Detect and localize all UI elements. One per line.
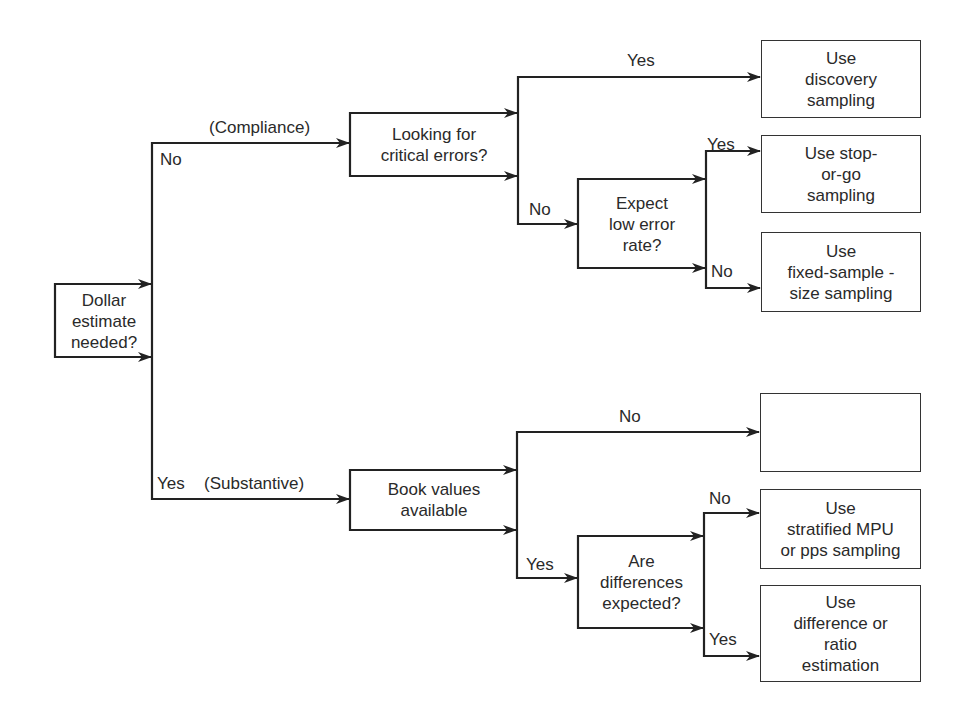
label-root-yes: Yes: [157, 474, 185, 494]
decision-book-values: Book values available: [351, 470, 517, 530]
label-critical-no: No: [529, 200, 551, 220]
outcome-discovery-sampling: Use discovery sampling: [761, 40, 921, 118]
label-book-no: No: [619, 407, 641, 427]
label-book-yes: Yes: [526, 555, 554, 575]
outcome-fixed-sample-size-sampling: Use fixed-sample - size sampling: [761, 232, 921, 312]
label-diff-no: No: [709, 489, 731, 509]
label-compliance: (Compliance): [209, 118, 310, 138]
decision-differences-expected: Are differences expected?: [579, 536, 704, 628]
label-root-no: No: [160, 150, 182, 170]
outcome-difference-ratio-estimation: Use difference or ratio estimation: [760, 585, 921, 682]
outcome-empty: [760, 393, 921, 472]
decision-dollar-estimate: Dollar estimate needed?: [56, 284, 152, 358]
label-diff-yes: Yes: [709, 630, 737, 650]
label-critical-yes: Yes: [627, 51, 655, 71]
label-lowerr-no: No: [711, 262, 733, 282]
outcome-stratified-mpu-pps: Use stratified MPU or pps sampling: [760, 489, 921, 569]
decision-critical-errors: Looking for critical errors?: [351, 113, 517, 177]
decision-low-error-rate: Expect low error rate?: [579, 179, 705, 269]
label-substantive: (Substantive): [204, 474, 304, 494]
outcome-stop-or-go-sampling: Use stop- or-go sampling: [761, 135, 921, 213]
label-lowerr-yes: Yes: [707, 135, 735, 155]
